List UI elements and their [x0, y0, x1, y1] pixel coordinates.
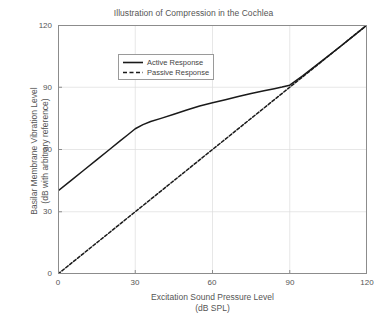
x-tick-label-0: 0: [43, 278, 73, 287]
legend-label-active: Active Response: [147, 58, 203, 67]
y-axis-title-line1: Basilar Membrane Vibration Level: [29, 26, 40, 276]
x-tick-label-120: 120: [352, 278, 382, 287]
x-tick-label-30: 30: [120, 278, 150, 287]
chart-legend: Active Response Passive Response: [118, 54, 214, 80]
legend-item-passive: Passive Response: [122, 67, 209, 77]
legend-line-solid-icon: [122, 58, 144, 67]
legend-label-passive: Passive Response: [147, 68, 209, 77]
legend-line-dashed-icon: [122, 68, 144, 77]
y-axis-title: Basilar Membrane Vibration Level (dB wit…: [29, 26, 51, 276]
x-axis-title-line1: Excitation Sound Pressure Level: [58, 292, 367, 303]
x-axis-title-line2: (dB SPL): [58, 303, 367, 314]
plot-area: Active Response Passive Response: [58, 25, 367, 274]
x-tick-label-60: 60: [197, 278, 227, 287]
x-tick-label-90: 90: [275, 278, 305, 287]
chart-title: Illustration of Compression in the Cochl…: [0, 8, 387, 18]
y-axis-title-line2: (dB with arbitrary reference): [40, 26, 51, 276]
legend-item-active: Active Response: [122, 57, 209, 67]
x-axis-title: Excitation Sound Pressure Level (dB SPL): [58, 292, 367, 314]
chart-figure: Illustration of Compression in the Cochl…: [0, 0, 387, 325]
